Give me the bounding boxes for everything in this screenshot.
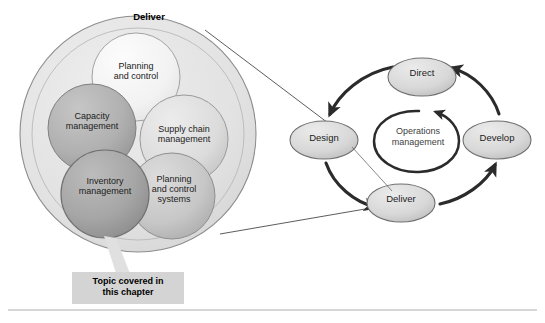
cycle-node-develop <box>463 121 531 159</box>
cycle-node-design <box>290 121 358 159</box>
center-leader-line <box>352 147 392 191</box>
callout-topic-covered: Topic covered in this chapter <box>72 272 184 304</box>
cycle-node-deliver <box>367 184 435 222</box>
cycle-node-direct <box>388 58 456 96</box>
inner-circle-inventory-management <box>61 150 149 238</box>
figure-container: Deliver Planning and control Capacity ma… <box>0 0 545 323</box>
